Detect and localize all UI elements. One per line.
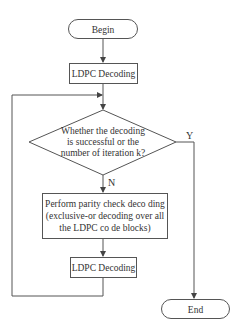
decision-line-3: number of iteration k?	[61, 148, 146, 158]
parity-line-3: the LDPC co de blocks)	[59, 223, 150, 234]
end-label: End	[188, 305, 204, 315]
flowchart: Begin LDPC Decoding Whether the decoding…	[0, 0, 241, 335]
parity-line-2: (exclusive-or decoding over all	[46, 211, 165, 222]
decision-line-1: Whether the decoding	[61, 126, 145, 136]
ldpc-decoding-node-1: LDPC Decoding	[70, 64, 138, 84]
ldpc-decoding-label-2: LDPC Decoding	[72, 263, 136, 273]
parity-line-1: Perform parity check deco ding	[45, 199, 165, 209]
yes-label: Y	[186, 130, 193, 141]
begin-node: Begin	[69, 20, 138, 39]
end-node: End	[162, 300, 230, 319]
decision-line-2: is successful or the	[67, 137, 139, 147]
no-label: N	[108, 177, 115, 188]
begin-label: Begin	[92, 25, 115, 35]
ldpc-decoding-node-2: LDPC Decoding	[71, 258, 137, 278]
decision-node: Whether the decoding is successful or th…	[29, 110, 176, 175]
parity-check-node: Perform parity check deco ding (exclusiv…	[43, 194, 168, 239]
ldpc-decoding-label-1: LDPC Decoding	[72, 69, 136, 79]
edge-decision-end	[176, 142, 194, 298]
